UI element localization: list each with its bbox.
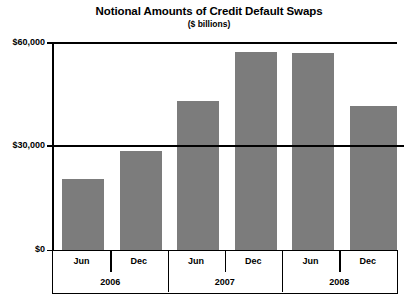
x-label-2008-dec: Dec [339, 250, 396, 272]
bar-2008-dec [350, 106, 397, 250]
y-tick-label-60000: $60,000 [0, 37, 45, 47]
bar-2007-dec [235, 52, 277, 250]
bar-2008-jun [292, 53, 334, 250]
x-axis-year-row: 2006 2007 2008 [53, 272, 397, 292]
y-tick-label-0: $0 [0, 244, 45, 254]
x-label-year-2006: 2006 [53, 272, 168, 292]
x-axis-label-table: Jun Dec Jun Dec Jun Dec 2006 2007 2008 [52, 250, 398, 294]
bar-2006-dec [120, 151, 162, 250]
y-tick-label-30000: $30,000 [0, 140, 45, 150]
x-label-2006-dec: Dec [110, 250, 167, 272]
x-axis-month-row: Jun Dec Jun Dec Jun Dec [53, 250, 397, 272]
x-label-year-2008: 2008 [282, 272, 397, 292]
gridline-60000 [52, 42, 397, 44]
chart-subtitle: ($ billions) [0, 19, 418, 29]
bar-2006-jun [62, 179, 104, 250]
chart-title: Notional Amounts of Credit Default Swaps [0, 5, 418, 18]
x-label-year-2007: 2007 [168, 272, 283, 292]
x-label-2006-jun: Jun [53, 250, 110, 272]
bar-2007-jun [177, 101, 219, 250]
chart-container: Notional Amounts of Credit Default Swaps… [0, 0, 418, 295]
x-label-2008-jun: Jun [282, 250, 339, 272]
gridline-30000 [52, 145, 397, 147]
y-tick-mark-right-30000 [397, 145, 404, 147]
x-label-2007-jun: Jun [168, 250, 225, 272]
x-label-2007-dec: Dec [225, 250, 282, 272]
